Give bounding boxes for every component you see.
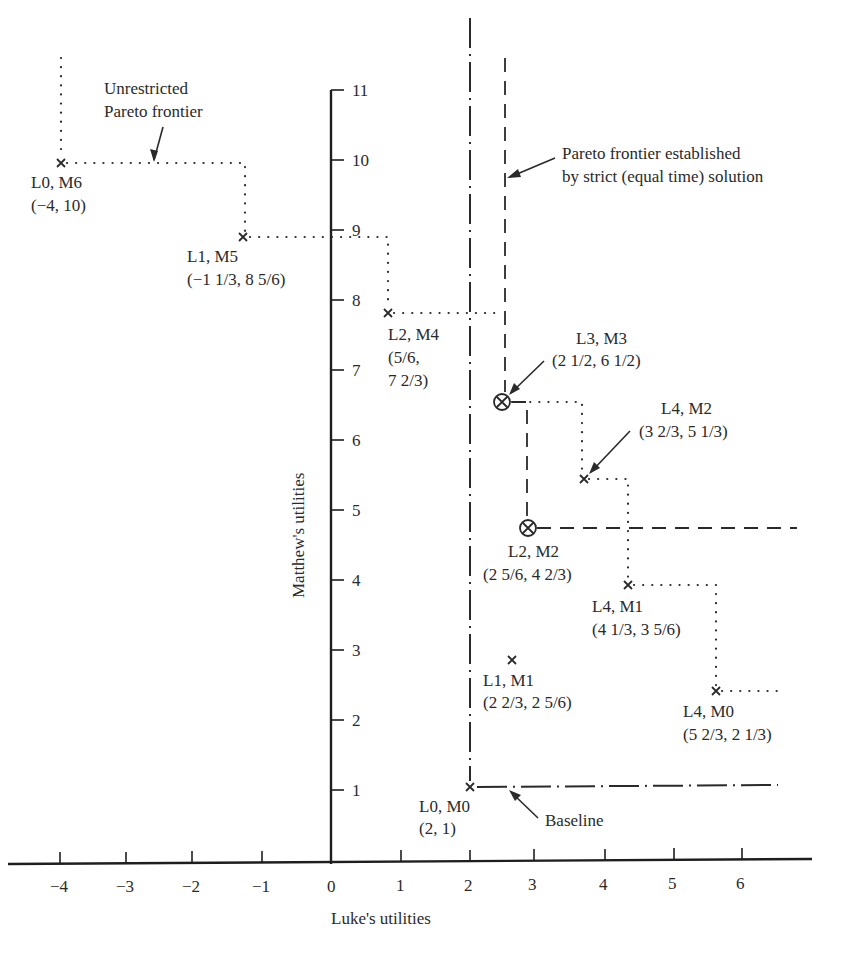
strict-solution-frontier bbox=[505, 58, 797, 528]
point-coords: (−4, 10) bbox=[31, 196, 86, 215]
point-label: L0, M6 bbox=[31, 173, 82, 192]
x-marker-icon bbox=[624, 581, 632, 589]
arrow-icon bbox=[150, 127, 163, 162]
point-coords: (2 2/3, 2 5/6) bbox=[483, 693, 572, 712]
point-coords: (5/6, bbox=[388, 348, 420, 367]
pareto-chart: 1 2 3 4 5 6 7 8 9 10 11 −4 −3 −2 −1 0 1 … bbox=[0, 0, 842, 960]
x-tick-label: 5 bbox=[668, 874, 677, 893]
circled-x-marker-icon bbox=[494, 394, 510, 410]
point-coords: (−1 1/3, 8 5/6) bbox=[187, 270, 285, 289]
y-tick-label: 5 bbox=[352, 501, 361, 520]
x-marker-icon bbox=[239, 233, 247, 241]
x-marker-icon bbox=[508, 656, 516, 664]
y-tick-label: 10 bbox=[352, 151, 369, 170]
point-coords: 7 2/3) bbox=[388, 371, 428, 390]
y-tick-label: 8 bbox=[352, 291, 361, 310]
point-label: L1, M1 bbox=[483, 671, 534, 690]
point-label: L1, M5 bbox=[187, 247, 238, 266]
x-axis bbox=[8, 859, 812, 864]
y-tick-label: 1 bbox=[352, 781, 361, 800]
x-tick-label: −2 bbox=[182, 877, 200, 896]
y-tick-label: 7 bbox=[352, 361, 361, 380]
arrow-icon bbox=[509, 361, 544, 395]
x-tick-label: 1 bbox=[396, 876, 405, 895]
point-coords: (5 2/3, 2 1/3) bbox=[683, 725, 772, 744]
y-ticks: 1 2 3 4 5 6 7 8 9 10 11 bbox=[331, 81, 369, 800]
y-tick-label: 4 bbox=[352, 571, 361, 590]
x-marker-icon bbox=[466, 783, 474, 791]
y-tick-label: 6 bbox=[352, 431, 361, 450]
point-label: L0, M0 bbox=[419, 797, 470, 816]
x-axis-label: Luke's utilities bbox=[331, 909, 431, 928]
annotation-text: Pareto frontier established bbox=[562, 144, 741, 163]
y-tick-label: 3 bbox=[352, 641, 361, 660]
x-marker-icon bbox=[712, 687, 720, 695]
point-label: L4, M0 bbox=[683, 702, 734, 721]
x-tick-label: 3 bbox=[528, 875, 537, 894]
point-label: L3, M3 bbox=[576, 329, 627, 348]
x-marker-icon bbox=[384, 309, 392, 317]
x-tick-label: 2 bbox=[464, 876, 473, 895]
point-coords: (3 2/3, 5 1/3) bbox=[639, 422, 728, 441]
point-labels: L0, M6 (−4, 10) L1, M5 (−1 1/3, 8 5/6) L… bbox=[31, 173, 772, 838]
x-marker-icon bbox=[57, 159, 65, 167]
x-marker-icon bbox=[580, 475, 588, 483]
annotation-text: Baseline bbox=[545, 811, 604, 830]
x-ticks: −4 −3 −2 −1 0 1 2 3 4 5 6 bbox=[50, 848, 745, 896]
y-tick-label: 2 bbox=[352, 711, 361, 730]
x-tick-label: −3 bbox=[116, 877, 134, 896]
point-label: L4, M1 bbox=[592, 597, 643, 616]
point-coords: (2 1/2, 6 1/2) bbox=[552, 351, 641, 370]
point-label: L2, M2 bbox=[508, 542, 559, 561]
x-tick-label: 0 bbox=[327, 877, 336, 896]
x-tick-label: −4 bbox=[50, 877, 69, 896]
arrow-icon bbox=[509, 790, 538, 818]
point-coords: (2, 1) bbox=[419, 819, 456, 838]
point-coords: (2 5/6, 4 2/3) bbox=[483, 565, 572, 584]
arrow-icon bbox=[507, 158, 555, 178]
annotation-text: Unrestricted bbox=[104, 79, 189, 98]
y-tick-label: 11 bbox=[352, 81, 368, 100]
point-label: L2, M4 bbox=[388, 325, 440, 344]
annotation-text: Pareto frontier bbox=[104, 102, 203, 121]
point-label: L4, M2 bbox=[661, 399, 712, 418]
point-coords: (4 1/3, 3 5/6) bbox=[592, 620, 681, 639]
x-tick-label: 6 bbox=[736, 874, 745, 893]
annotation-text: by strict (equal time) solution bbox=[562, 167, 764, 186]
annotations: Unrestricted Pareto frontier Pareto fron… bbox=[104, 79, 764, 830]
x-tick-label: −1 bbox=[252, 877, 270, 896]
y-axis-label: Matthew's utilities bbox=[289, 473, 308, 598]
circled-x-marker-icon bbox=[520, 520, 536, 536]
arrow-icon bbox=[589, 431, 630, 474]
x-tick-label: 4 bbox=[599, 875, 608, 894]
